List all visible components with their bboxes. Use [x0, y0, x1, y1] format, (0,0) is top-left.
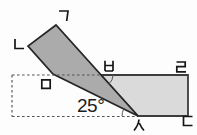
- folded-paper-diagram: 25°: [0, 0, 197, 135]
- angle-arc-at-siot: [122, 109, 124, 116]
- vertex-label-giyeok-icon: [59, 11, 68, 21]
- vertex-label-rieul-icon: [177, 62, 187, 72]
- angle-value-label: 25°: [77, 95, 104, 116]
- vertex-label-bieup-icon: [105, 61, 113, 71]
- vertex-label-nieun-icon: [15, 39, 24, 49]
- geometry-figure: 25°: [0, 0, 197, 135]
- vertex-label-siot-icon: [134, 120, 144, 131]
- vertex-label-digeut-icon: [184, 117, 193, 126]
- vertex-label-mieum-icon: [42, 80, 50, 89]
